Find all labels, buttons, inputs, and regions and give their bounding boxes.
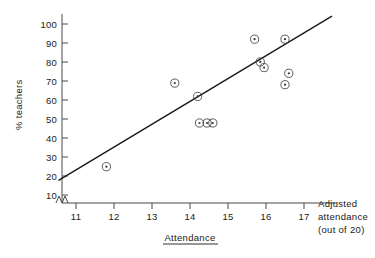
data-point bbox=[281, 35, 289, 43]
plot-canvas: 10 20 30 40 50 60 70 80 90 100 11 12 13 … bbox=[0, 0, 375, 258]
x-axis-note-line1: Adjusted bbox=[318, 198, 357, 209]
y-tick-label-50: 50 bbox=[46, 114, 57, 125]
x-axis-title: Attendance bbox=[164, 232, 215, 243]
y-tick-label-90: 90 bbox=[46, 38, 57, 49]
data-point bbox=[251, 35, 259, 43]
data-point bbox=[281, 81, 289, 89]
x-tick-label-17: 17 bbox=[299, 211, 310, 222]
x-tick-label-11: 11 bbox=[71, 211, 81, 222]
data-point bbox=[194, 92, 202, 100]
data-point bbox=[195, 119, 203, 127]
y-tick-label-70: 70 bbox=[46, 76, 57, 87]
y-tick-label-20: 20 bbox=[46, 171, 57, 182]
x-axis-note-line2: attendance bbox=[318, 211, 368, 222]
x-tick-label-13: 13 bbox=[147, 211, 158, 222]
x-tick-label-14: 14 bbox=[185, 211, 196, 222]
scatter-plot-figure: 10 20 30 40 50 60 70 80 90 100 11 12 13 … bbox=[0, 0, 375, 258]
data-points bbox=[102, 35, 293, 171]
y-tick-label-60: 60 bbox=[46, 95, 57, 106]
y-axis-ticks bbox=[62, 24, 68, 195]
data-point bbox=[171, 79, 179, 87]
y-tick-label-40: 40 bbox=[46, 133, 57, 144]
data-point bbox=[209, 119, 217, 127]
y-tick-label-10: 10 bbox=[46, 190, 57, 201]
x-axis-ticks bbox=[76, 203, 304, 209]
x-axis-note-line3: (out of 20) bbox=[318, 224, 365, 235]
x-tick-label-15: 15 bbox=[223, 211, 234, 222]
y-tick-label-30: 30 bbox=[46, 152, 57, 163]
data-point bbox=[260, 64, 268, 72]
regression-line bbox=[59, 16, 332, 180]
y-tick-label-100: 100 bbox=[41, 19, 57, 30]
x-tick-label-12: 12 bbox=[109, 211, 120, 222]
data-point bbox=[102, 163, 110, 171]
y-tick-label-80: 80 bbox=[46, 57, 57, 68]
data-point bbox=[285, 69, 293, 77]
x-tick-label-16: 16 bbox=[261, 211, 272, 222]
y-axis-title: % teachers bbox=[13, 79, 24, 130]
